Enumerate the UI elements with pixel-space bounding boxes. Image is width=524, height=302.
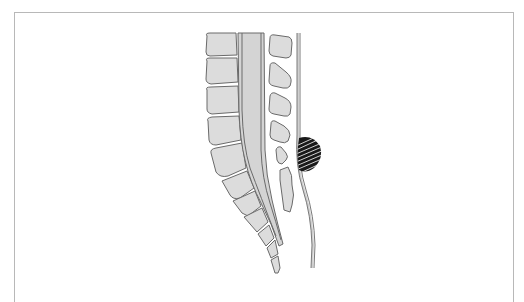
vertebra-l4 — [208, 116, 242, 145]
vertebra-l2 — [206, 58, 238, 84]
vertebra-l1 — [206, 33, 237, 56]
vertebra-l5 — [211, 143, 246, 177]
hatched-mass — [296, 136, 324, 176]
coccyx — [267, 240, 280, 273]
vertebra-l3 — [207, 86, 240, 114]
spinous-processes — [269, 35, 294, 212]
